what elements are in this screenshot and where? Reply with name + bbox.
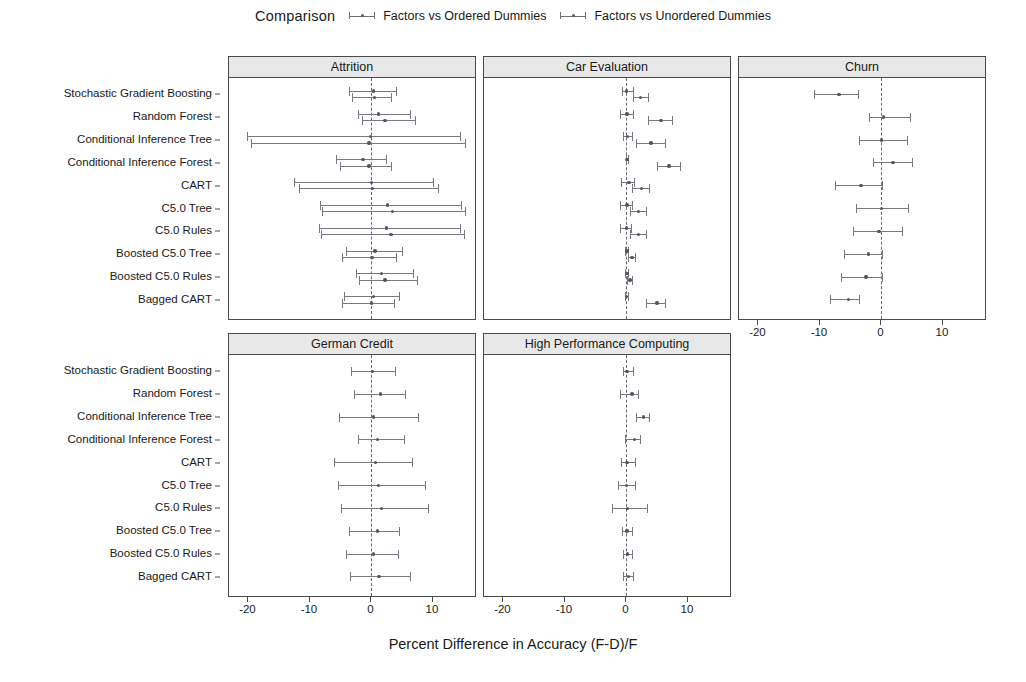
error-bar-cap-right (395, 367, 396, 376)
data-point (630, 256, 633, 259)
data-point (391, 210, 394, 213)
error-bar-cap-left (339, 413, 340, 422)
error-bar-line (859, 140, 908, 141)
error-bar-cap-left (251, 139, 252, 148)
error-bar (856, 204, 908, 213)
error-bar (350, 572, 412, 581)
x-axis-tick (432, 597, 433, 602)
error-bar-cap-left (618, 481, 619, 490)
error-bar-cap-left (338, 481, 339, 490)
error-bar (620, 110, 634, 119)
y-axis-tick (215, 508, 220, 509)
data-point (847, 298, 850, 301)
error-bar-cap-right (649, 184, 650, 193)
error-bar-cap-right (391, 162, 392, 171)
data-point (377, 484, 380, 487)
data-point (367, 141, 370, 144)
legend-entry-unordered[interactable]: Factors vs Unordered Dummies (560, 9, 770, 23)
data-point (626, 135, 629, 138)
error-bar-cap-right (665, 299, 666, 308)
legend-entry-ordered[interactable]: Factors vs Ordered Dummies (349, 9, 546, 23)
error-bar (841, 273, 882, 282)
error-bar-cap-left (630, 230, 631, 239)
data-point (625, 529, 628, 532)
x-axis-tick (502, 597, 503, 602)
error-bar (623, 132, 632, 141)
error-bar-cap-left (349, 527, 350, 536)
error-bar-cap-right (399, 292, 400, 301)
data-point (371, 370, 374, 373)
y-axis-label: Stochastic Gradient Boosting (64, 89, 212, 101)
y-axis-tick (215, 185, 220, 186)
error-bar-cap-right (464, 230, 465, 239)
data-point (625, 226, 628, 229)
error-bar-line (340, 166, 392, 167)
error-bar-cap-right (398, 550, 399, 559)
error-bar (342, 253, 397, 262)
error-bar-cap-right (859, 295, 860, 304)
error-bar (633, 93, 648, 102)
data-point (627, 181, 630, 184)
error-bar-line (342, 303, 396, 304)
error-bar-cap-right (882, 273, 883, 282)
error-bar-line (322, 211, 466, 212)
x-axis-title: Percent Difference in Accuracy (F-D)/F (0, 636, 1026, 652)
error-bar-cap-right (640, 435, 641, 444)
error-bar-cap-left (356, 269, 357, 278)
legend-label-ordered: Factors vs Ordered Dummies (383, 9, 546, 23)
y-axis-label: Random Forest (133, 112, 212, 124)
data-point (379, 392, 382, 395)
error-bar-cap-right (910, 113, 911, 122)
error-bar-cap-left (336, 155, 337, 164)
chart-legend: Comparison Factors vs Ordered Dummies Fa… (0, 8, 1026, 24)
error-bar (625, 435, 641, 444)
data-point (877, 230, 880, 233)
data-point (625, 158, 628, 161)
error-bar-cap-right (399, 527, 400, 536)
error-bar-cap-right (907, 136, 908, 145)
error-bar (359, 276, 418, 285)
error-bar-cap-right (402, 247, 403, 256)
y-axis-tick (215, 208, 220, 209)
error-bar-cap-left (247, 132, 248, 141)
y-axis-label: Random Forest (133, 389, 212, 401)
error-bar-line (294, 182, 434, 183)
error-bar-line (359, 280, 418, 281)
x-axis-tick (564, 597, 565, 602)
error-bar-line (830, 299, 860, 300)
data-point (376, 529, 379, 532)
error-bar-cap-right (646, 230, 647, 239)
error-bar-cap-left (623, 367, 624, 376)
chart-root: Comparison Factors vs Ordered Dummies Fa… (0, 0, 1026, 682)
error-bar (869, 113, 911, 122)
error-bar-cap-right (632, 132, 633, 141)
y-axis-label: C5.0 Tree (162, 480, 213, 492)
error-bar (349, 527, 399, 536)
y-axis-tick (215, 576, 220, 577)
error-bar (351, 367, 397, 376)
data-point (837, 93, 840, 96)
data-point (627, 575, 630, 578)
error-bar-cap-right (908, 204, 909, 213)
x-axis-tick-label: -20 (239, 603, 256, 615)
error-bar (621, 458, 636, 467)
error-bar-cap-right (632, 527, 633, 536)
y-axis-label: C5.0 Rules (155, 503, 212, 515)
error-bar-cap-left (657, 162, 658, 171)
panel-car-evaluation: Car Evaluation (483, 56, 731, 320)
y-axis-label: Conditional Inference Tree (77, 134, 212, 146)
data-point (867, 252, 870, 255)
data-point (640, 187, 643, 190)
error-bar-cap-left (621, 178, 622, 187)
x-axis-tick (625, 597, 626, 602)
error-bar (618, 481, 636, 490)
error-bar-cap-right (415, 116, 416, 125)
error-bar-cap-right (438, 184, 439, 193)
error-bar-line (338, 485, 425, 486)
error-bar (322, 207, 466, 216)
error-bar-cap-left (342, 299, 343, 308)
error-bar-line (321, 234, 465, 235)
y-axis-tick (215, 254, 220, 255)
error-bar-cap-right (628, 292, 629, 301)
data-point (882, 115, 885, 118)
